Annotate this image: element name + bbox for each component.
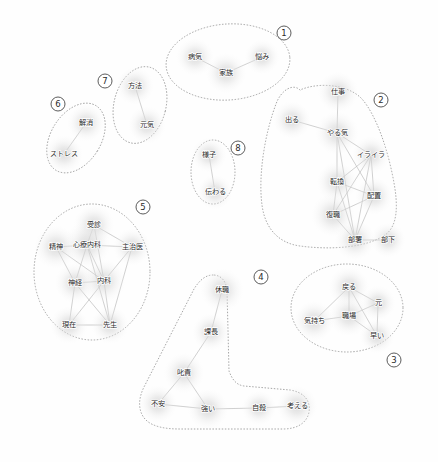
node-label: 先生	[103, 320, 117, 329]
node-label: 部署	[348, 235, 362, 244]
cluster-badge-5: 5	[136, 200, 150, 214]
cluster-badge-1: 1	[277, 26, 291, 40]
node-label: 悩み	[255, 52, 269, 61]
node-label: 精神	[49, 242, 63, 251]
node-label: イライラ	[357, 151, 385, 159]
node-label: 主治医	[122, 242, 143, 251]
node-label: 解消	[79, 118, 93, 127]
cluster-badge-6: 6	[51, 97, 65, 111]
node-label: 戻る	[342, 282, 356, 291]
node-label: 転換	[330, 177, 344, 186]
node-label: やる気	[327, 128, 348, 137]
cluster-badge-7: 7	[98, 74, 112, 88]
cluster-badge-number: 3	[391, 355, 396, 365]
node-label: 内科	[97, 276, 111, 285]
cluster-badge-number: 1	[281, 28, 286, 38]
node-label: 職場	[342, 311, 356, 320]
node-label: 考える	[287, 401, 308, 410]
node-label: 配置	[367, 191, 381, 200]
cluster-badge-2: 2	[374, 93, 388, 107]
node-label: 休職	[215, 285, 229, 294]
node-label: 伝わる	[205, 187, 226, 196]
node-label: 神経	[68, 278, 82, 287]
network-canvas: 病気家族悩み仕事出るやる気イライラ転換配置復職部署部下戻る元気持ち職場早い休職課…	[0, 0, 438, 462]
node-label: 仕事	[331, 87, 345, 96]
cluster-badge-number: 4	[258, 272, 263, 282]
cluster-badge-4: 4	[254, 270, 268, 284]
node-label: 早い	[370, 331, 384, 340]
node-label: 現在	[62, 320, 76, 329]
node-label: 課長	[204, 327, 218, 336]
node-label: 復職	[326, 210, 340, 219]
node-label: 不安	[151, 399, 165, 408]
node-label: ストレス	[50, 150, 78, 158]
cluster-badge-8: 8	[231, 141, 245, 155]
node-label: 病気	[188, 52, 202, 61]
cluster-badge-3: 3	[387, 353, 401, 367]
node-halos-layer	[34, 38, 405, 429]
cluster-badge-number: 7	[102, 76, 107, 86]
cooccurrence-network-figure: 病気家族悩み仕事出るやる気イライラ転換配置復職部署部下戻る元気持ち職場早い休職課…	[0, 0, 438, 462]
cluster-badge-number: 2	[378, 95, 383, 105]
node-label: 元	[375, 298, 382, 307]
node-label: 受診	[87, 220, 101, 229]
node-label: 家族	[219, 68, 233, 77]
node-label: 方法	[128, 81, 142, 90]
node-label: 出る	[285, 115, 299, 124]
node-label: 自殺	[252, 403, 266, 412]
node-label: 叱責	[177, 368, 191, 377]
node-label: 元気	[140, 120, 154, 129]
node-label: 部下	[381, 235, 395, 244]
node-label: 心療内科	[73, 240, 101, 249]
node-label: 強い	[201, 404, 215, 413]
node-label: 様子	[202, 150, 216, 159]
node-label: 気持ち	[304, 316, 325, 325]
cluster-badge-number: 8	[235, 143, 240, 153]
cluster-badge-number: 6	[55, 99, 60, 109]
cluster-badge-number: 5	[140, 202, 145, 212]
